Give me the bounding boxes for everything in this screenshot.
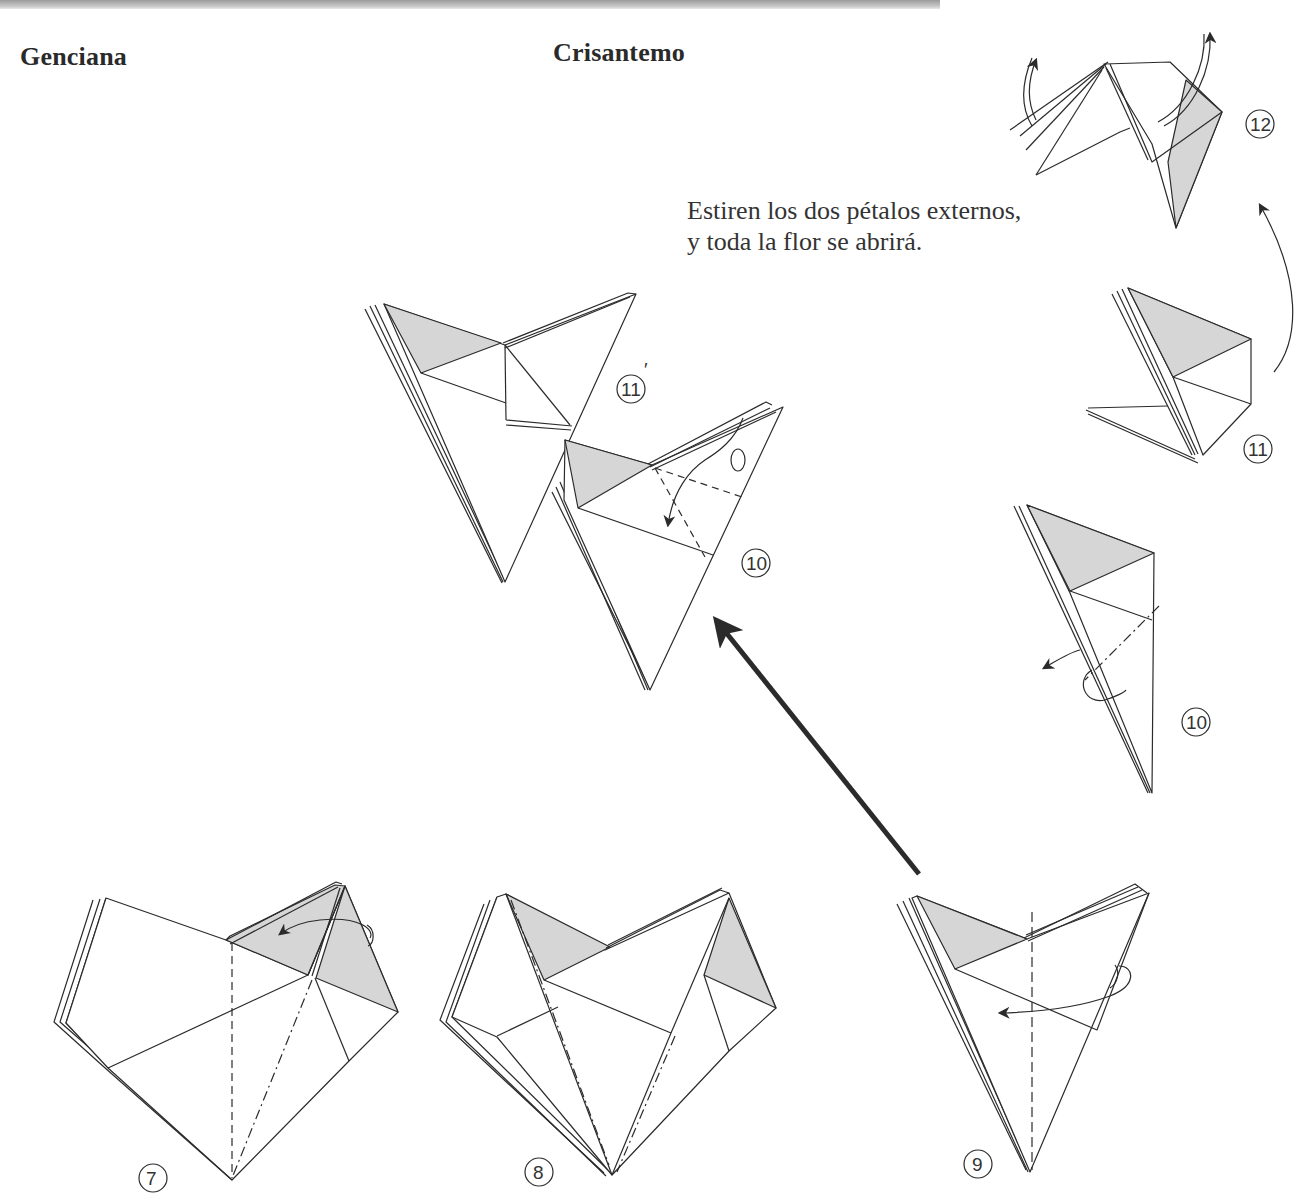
- svg-text:12: 12: [1250, 114, 1271, 135]
- step-7-diagram: [54, 882, 398, 1180]
- step-7-number: 7: [139, 1164, 167, 1192]
- step-8-number: 8: [525, 1158, 553, 1186]
- step-9-diagram: [897, 884, 1149, 1172]
- step-10-right-number: 10: [1182, 708, 1210, 736]
- big-progress-arrow: [716, 620, 919, 874]
- svg-text:11: 11: [621, 379, 641, 400]
- step-9-number: 9: [964, 1150, 992, 1178]
- step-11-prime-number: 11 ′: [617, 359, 648, 403]
- svg-text:9: 9: [972, 1154, 983, 1175]
- svg-text:8: 8: [533, 1162, 544, 1183]
- step-12-diagram: [1010, 34, 1222, 228]
- step-10-right-diagram: [1014, 505, 1159, 793]
- svg-text:11: 11: [1248, 439, 1268, 460]
- svg-text:10: 10: [1186, 712, 1207, 733]
- curved-arrow-11-to-12: [1260, 205, 1293, 372]
- svg-text:10: 10: [746, 553, 767, 574]
- step-11-right-diagram: [1086, 288, 1251, 463]
- step-11-right-number: 11: [1244, 435, 1272, 463]
- step-10-center-diagram: [552, 402, 783, 690]
- origami-diagram: 7 8: [0, 0, 1298, 1200]
- step-12-number: 12: [1246, 110, 1274, 138]
- step-8-diagram: [440, 888, 776, 1176]
- svg-text:′: ′: [644, 359, 648, 380]
- step-10-center-number: 10: [742, 549, 770, 577]
- svg-text:7: 7: [146, 1168, 157, 1189]
